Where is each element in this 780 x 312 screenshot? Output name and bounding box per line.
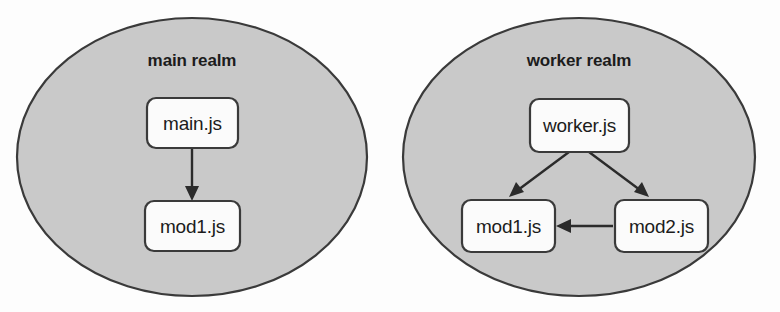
node-worker-mod1-js[interactable]: mod1.js — [462, 200, 555, 252]
module-graph-diagram: main realm main.js mod1.js worker realm — [0, 0, 780, 312]
node-main-mod1-js[interactable]: mod1.js — [145, 201, 240, 251]
node-main-js[interactable]: main.js — [147, 98, 238, 148]
realm-main-title: main realm — [148, 51, 237, 70]
node-main-js-label: main.js — [163, 113, 222, 134]
diagram-canvas: main realm main.js mod1.js worker realm — [0, 0, 780, 312]
node-worker-js-label: worker.js — [542, 115, 616, 136]
node-worker-mod2-js[interactable]: mod2.js — [615, 200, 708, 252]
node-worker-js[interactable]: worker.js — [530, 99, 629, 152]
realm-worker-title: worker realm — [526, 51, 632, 70]
node-worker-mod1-js-label: mod1.js — [476, 216, 541, 237]
realm-main: main realm main.js mod1.js — [17, 18, 367, 296]
node-worker-mod2-js-label: mod2.js — [629, 216, 694, 237]
node-main-mod1-js-label: mod1.js — [160, 216, 225, 237]
realm-worker: worker realm worker.js — [403, 18, 755, 296]
